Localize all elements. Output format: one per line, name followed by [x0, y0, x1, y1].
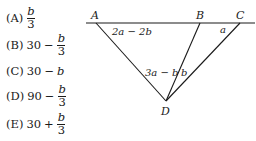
point-label-a: A — [90, 9, 99, 22]
segment-cd — [166, 23, 240, 101]
point-label-d: D — [160, 105, 170, 118]
geometry-diagram: A B C D 2a − 2b a 3a − b b — [0, 0, 256, 141]
angle-label-d-right: b — [181, 67, 187, 78]
point-label-b: B — [195, 9, 204, 22]
angle-label-d-left: 3a − b — [145, 67, 178, 78]
angle-label-a: 2a − 2b — [111, 26, 152, 37]
segment-bd — [166, 23, 200, 101]
point-label-c: C — [236, 9, 245, 22]
angle-label-c: a — [220, 24, 226, 35]
